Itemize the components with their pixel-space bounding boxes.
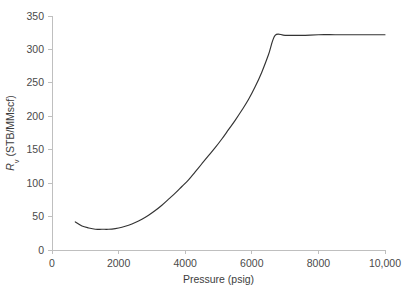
x-tick-label: 6000 <box>240 257 264 269</box>
y-tick-label: 300 <box>26 43 44 55</box>
chart-background <box>0 0 402 293</box>
x-tick-label: 2000 <box>107 257 131 269</box>
y-tick-label: 50 <box>32 210 44 222</box>
y-tick-label: 100 <box>26 177 44 189</box>
x-tick-label: 8000 <box>307 257 331 269</box>
y-tick-label: 150 <box>26 143 44 155</box>
x-tick-label: 10,000 <box>369 257 401 269</box>
y-tick-label: 350 <box>26 10 44 22</box>
chart-container: 0200040006000800010,000 0501001502002503… <box>0 0 402 293</box>
y-tick-label: 200 <box>26 110 44 122</box>
y-tick-label: 0 <box>38 244 44 256</box>
chart-plot: 0200040006000800010,000 0501001502002503… <box>0 0 402 293</box>
x-tick-label: 0 <box>49 257 55 269</box>
y-tick-label: 250 <box>26 76 44 88</box>
x-tick-label: 4000 <box>174 257 198 269</box>
x-axis-title: Pressure (psig) <box>183 273 254 285</box>
